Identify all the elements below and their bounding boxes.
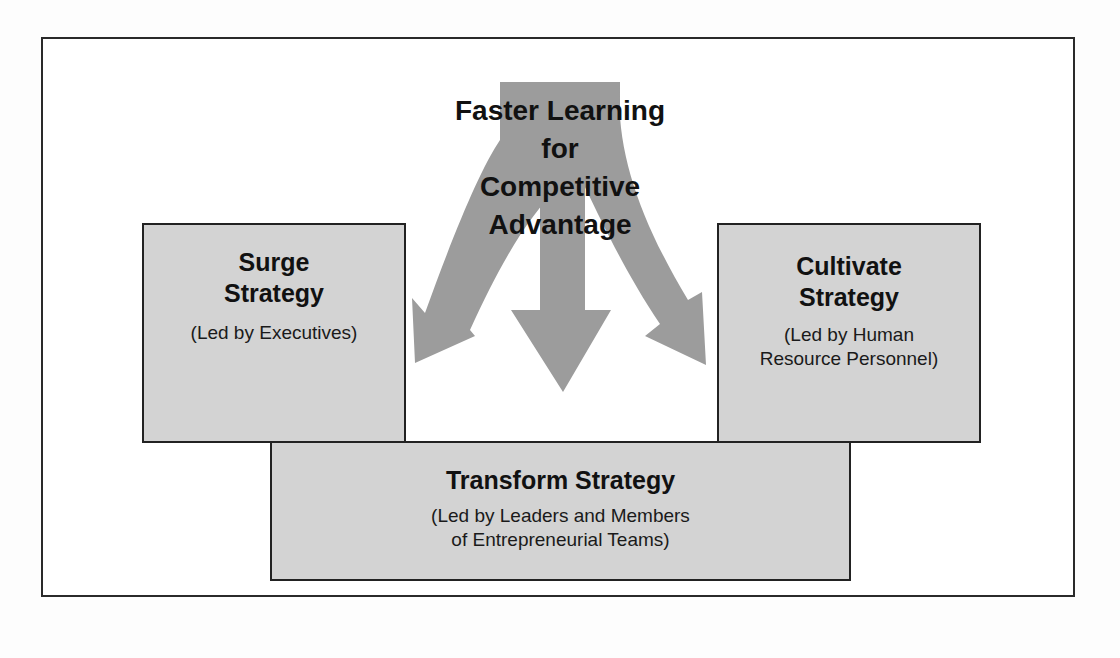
cultivate-subtitle-line: (Led by Human [719, 323, 979, 347]
transform-title-line: Transform Strategy [272, 465, 849, 496]
headline-line: Advantage [400, 206, 720, 244]
headline-line: Faster Learning [400, 92, 720, 130]
cultivate-subtitle: (Led by Human Resource Personnel) [719, 323, 979, 371]
headline-line: Competitive [400, 168, 720, 206]
cultivate-subtitle-line: Resource Personnel) [719, 347, 979, 371]
transform-strategy-box: Transform Strategy (Led by Leaders and M… [270, 441, 851, 581]
surge-subtitle: (Led by Executives) [144, 321, 404, 345]
cultivate-strategy-box: Cultivate Strategy (Led by Human Resourc… [717, 223, 981, 443]
transform-subtitle-line: of Entrepreneurial Teams) [272, 528, 849, 552]
surge-subtitle-line: (Led by Executives) [144, 321, 404, 345]
transform-subtitle: (Led by Leaders and Members of Entrepren… [272, 504, 849, 552]
transform-title: Transform Strategy [272, 465, 849, 496]
cultivate-title-line: Cultivate [719, 251, 979, 282]
surge-title-line: Strategy [144, 278, 404, 309]
transform-subtitle-line: (Led by Leaders and Members [272, 504, 849, 528]
cultivate-title: Cultivate Strategy [719, 251, 979, 313]
headline-line: for [400, 130, 720, 168]
cultivate-title-line: Strategy [719, 282, 979, 313]
surge-strategy-box: Surge Strategy (Led by Executives) [142, 223, 406, 443]
headline-faster-learning: Faster Learning for Competitive Advantag… [400, 92, 720, 244]
surge-title: Surge Strategy [144, 247, 404, 309]
diagram-canvas: Faster Learning for Competitive Advantag… [0, 0, 1120, 658]
surge-title-line: Surge [144, 247, 404, 278]
